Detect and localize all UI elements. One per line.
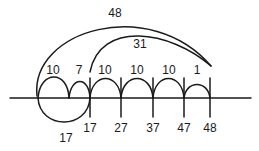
jump-label-1: 1	[194, 64, 201, 76]
jump-label-10c: 10	[130, 64, 143, 76]
tick-label-27: 27	[114, 122, 127, 134]
jump-arc-10d	[153, 79, 184, 99]
tick-label-17: 17	[83, 122, 96, 134]
jump-label-10a: 10	[46, 64, 59, 76]
tick-label-47: 47	[177, 122, 190, 134]
number-line-diagram: 48 31 10 7 10 10 10 1 17 17 27 37 47 48	[0, 0, 259, 151]
total-arc-label: 48	[108, 7, 121, 19]
below-arc-label: 17	[59, 132, 72, 144]
jump-label-10d: 10	[162, 64, 175, 76]
jump-arc-7	[69, 82, 90, 99]
jump-arc-10b	[90, 79, 121, 99]
jump-arc-10a	[38, 77, 69, 98]
jump-label-7: 7	[76, 64, 83, 76]
difference-arc-label: 31	[133, 38, 146, 50]
tick-label-37: 37	[146, 122, 159, 134]
jump-arc-1	[184, 85, 210, 99]
jump-label-10b: 10	[98, 64, 111, 76]
tick-label-48: 48	[203, 122, 216, 134]
jump-arc-10c	[121, 79, 153, 99]
below-arc-17	[38, 98, 90, 122]
